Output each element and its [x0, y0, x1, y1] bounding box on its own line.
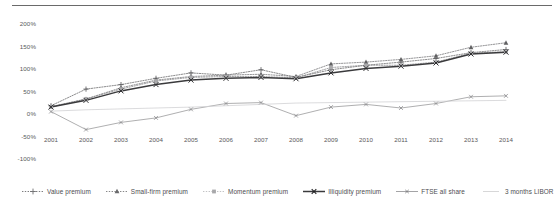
legend-item-momentum-premium[interactable]: Momentum premium [203, 187, 288, 196]
data-point-marker [154, 79, 158, 83]
legend-item-small-firm-premium[interactable]: Small-firm premium [106, 187, 188, 196]
legend-item-illiquidity-premium[interactable]: Illiquidity premium [303, 187, 381, 196]
legend-swatch-3-months-libor [480, 187, 502, 196]
legend-label-value-premium: Value premium [47, 188, 91, 195]
plot-area [0, 0, 560, 207]
legend-label-small-firm-premium: Small-firm premium [131, 188, 188, 195]
data-point-marker [83, 87, 88, 92]
legend-swatch-illiquidity-premium [303, 187, 325, 196]
legend-item-value-premium[interactable]: Value premium [22, 187, 91, 196]
series-layer [51, 43, 506, 130]
series-line-1 [51, 43, 506, 107]
marker-layer [48, 40, 508, 131]
legend-item-ftse-all-share[interactable]: FTSE all share [396, 187, 465, 196]
legend-label-ftse-all-share: FTSE all share [421, 188, 465, 195]
legend-swatch-momentum-premium [203, 187, 225, 196]
legend-swatch-ftse-all-share [396, 187, 418, 196]
chart-figure: 200% 150% 100% 50% 0% -50% -100% 2001 20… [0, 0, 560, 207]
legend-label-3-months-libor: 3 months LIBOR [505, 188, 554, 195]
data-point-marker [504, 40, 509, 44]
legend-item-3-months-libor[interactable]: 3 months LIBOR [480, 187, 554, 196]
legend-label-momentum-premium: Momentum premium [228, 188, 288, 195]
data-point-marker [258, 67, 263, 72]
legend-label-illiquidity-premium: Illiquidity premium [328, 188, 381, 195]
legend-swatch-small-firm-premium [106, 187, 128, 196]
series-line-2 [51, 52, 506, 107]
legend-swatch-value-premium [22, 187, 44, 196]
data-point-marker [329, 66, 333, 70]
chart-legend: Value premium Small-firm premium Momentu… [22, 184, 552, 198]
data-point-marker [49, 110, 53, 114]
